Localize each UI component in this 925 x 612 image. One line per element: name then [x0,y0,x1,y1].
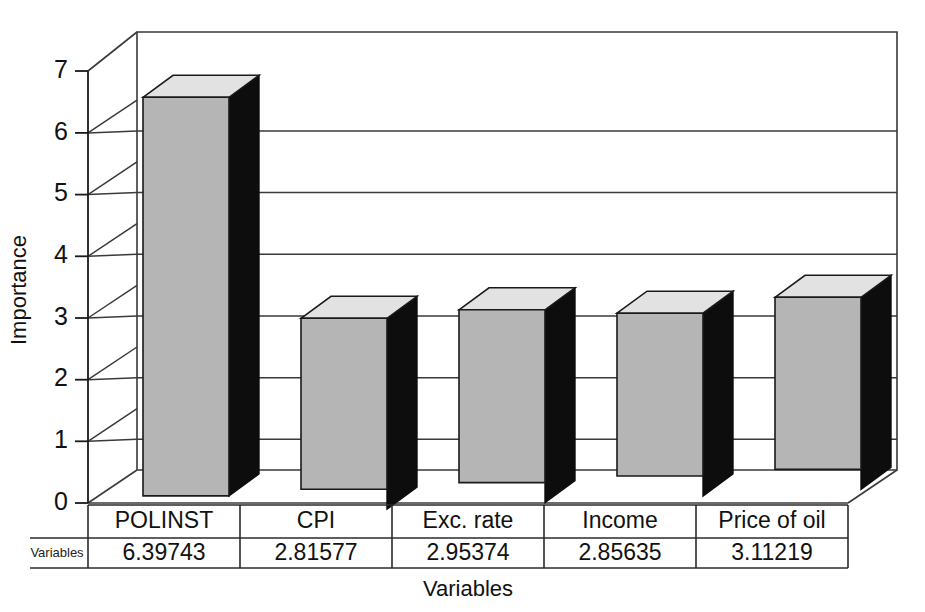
bar-chart-3d: 0 1 2 3 4 5 6 7 Importance [0,0,925,612]
bar-income-side [703,291,733,496]
gridline-depth-5 [88,193,137,195]
bar-polinst[interactable] [143,75,259,496]
y-tick-label-1: 1 [54,425,68,453]
tick-connector-6 [88,100,137,133]
table-header-cell-1: CPI [297,507,335,533]
chart-figure: 0 1 2 3 4 5 6 7 Importance [0,0,925,612]
gridline-depth-2 [88,378,137,380]
depth-edge-top-left [88,32,137,71]
bar-cpi-side [387,296,417,509]
tick-connector-1 [88,409,137,442]
tick-connector-4 [88,224,137,257]
bar-cpi-front [301,318,387,489]
y-tick-label-0: 0 [54,487,68,515]
bar-exc-rate-side [545,288,575,503]
tick-connector-3 [88,285,137,318]
bar-price-of-oil[interactable] [775,275,891,489]
gridline-depth-4 [88,254,137,256]
table-header-cell-4: Price of oil [718,507,825,533]
table-value-cell-3: 2.85635 [578,539,661,565]
table-value-cell-1: 2.81577 [274,539,357,565]
table-header-cell-0: POLINST [115,507,213,533]
y-axis: 0 1 2 3 4 5 6 7 [54,55,88,515]
depth-edge-bottom-left [88,470,137,503]
gridline-depth-3 [88,316,137,318]
table-row-label: Variables [30,545,84,560]
y-tick-label-3: 3 [54,302,68,330]
bar-polinst-front [143,97,229,496]
y-axis-title: Importance [6,235,31,345]
bar-income[interactable] [617,291,733,496]
y-tick-label-2: 2 [54,363,68,391]
tick-connector-5 [88,162,137,195]
bar-exc-rate-front [459,310,545,483]
bar-exc-rate[interactable] [459,288,575,503]
table-header-cell-3: Income [582,507,657,533]
bar-income-front [617,313,703,476]
table-header-cell-2: Exc. rate [423,507,514,533]
table-value-cell-4: 3.11219 [731,539,812,565]
tick-connector-2 [88,347,137,380]
y-tick-label-5: 5 [54,178,68,206]
bar-cpi[interactable] [301,296,417,509]
bar-price-of-oil-side [861,275,891,489]
data-table: Variables POLINST CPI Exc. rate Income P… [30,505,848,568]
gridline-depth-6 [88,131,137,133]
table-value-cell-2: 2.95374 [426,539,509,565]
y-tick-label-6: 6 [54,117,68,145]
y-tick-label-4: 4 [54,240,68,268]
bar-polinst-side [229,75,259,496]
x-axis-title: Variables [423,576,513,601]
y-tick-label-7: 7 [54,55,68,83]
gridline-depth-1 [88,439,137,441]
tick-depth-connectors [88,100,137,441]
bar-price-of-oil-front [775,297,861,469]
table-value-cell-0: 6.39743 [122,539,205,565]
